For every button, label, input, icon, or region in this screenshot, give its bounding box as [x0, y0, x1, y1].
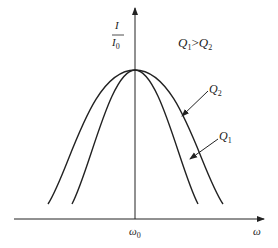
diagram-canvas: [0, 0, 278, 248]
x-center-label: ω0: [129, 226, 141, 240]
y-label-numerator: I: [115, 20, 119, 31]
resonance-diagram: I I0 Q1>Q2 Q2 Q1 ω0 ω: [0, 0, 278, 248]
y-label-denominator: I0: [112, 37, 120, 51]
curve-label-q1: Q1: [219, 130, 232, 145]
curve-label-q2: Q2: [209, 83, 222, 98]
pointer-q2: [182, 91, 208, 116]
x-axis-label: ω: [253, 226, 261, 237]
q-relation: Q1>Q2: [178, 36, 212, 52]
